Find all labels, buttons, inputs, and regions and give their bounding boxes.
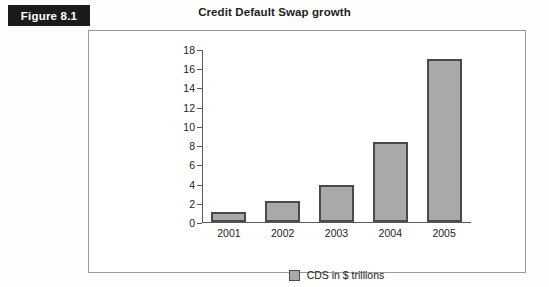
y-tick-mark (197, 108, 202, 109)
chart-title: Credit Default Swap growth (0, 6, 549, 18)
x-axis-line (202, 222, 471, 223)
y-tick-mark (197, 223, 202, 224)
y-tick-mark (197, 69, 202, 70)
y-tick-label: 6 (189, 158, 195, 172)
y-axis-line (202, 50, 203, 223)
y-tick-label: 8 (189, 139, 195, 153)
y-tick-mark (197, 50, 202, 51)
y-tick-mark (197, 127, 202, 128)
y-tick-mark (197, 185, 202, 186)
plot-area: 024681012141618 20012002200320042005 CDS… (202, 50, 471, 223)
bar-2002 (265, 201, 300, 222)
y-tick-mark (197, 165, 202, 166)
y-tick-mark (197, 204, 202, 205)
legend-label-cds: CDS in $ trillions (307, 269, 385, 281)
y-tick-label: 16 (183, 62, 195, 76)
chart-frame: 024681012141618 20012002200320042005 CDS… (88, 30, 526, 273)
y-tick-label: 14 (183, 81, 195, 95)
y-tick-mark (197, 146, 202, 147)
bar-2005 (427, 59, 462, 222)
bar-2001 (211, 212, 246, 222)
x-label-2005: 2005 (409, 227, 479, 239)
legend-swatch-cds (289, 270, 300, 281)
y-tick-label: 18 (183, 43, 195, 57)
y-tick-label: 12 (183, 101, 195, 115)
chart-legend: CDS in $ trillions (202, 269, 471, 281)
y-tick-mark (197, 88, 202, 89)
y-tick-label: 2 (189, 197, 195, 211)
bar-2003 (319, 185, 354, 222)
y-tick-label: 4 (189, 178, 195, 192)
bar-2004 (373, 142, 408, 222)
y-tick-label: 10 (183, 120, 195, 134)
